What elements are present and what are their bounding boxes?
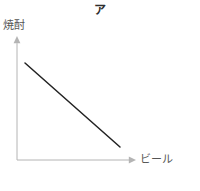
x-axis-arrowhead	[129, 157, 136, 164]
series-line-a	[25, 63, 120, 147]
chart-canvas: ア 焼酎 ビール	[0, 0, 200, 191]
plot-area	[0, 0, 200, 191]
y-axis-arrowhead	[14, 36, 21, 43]
